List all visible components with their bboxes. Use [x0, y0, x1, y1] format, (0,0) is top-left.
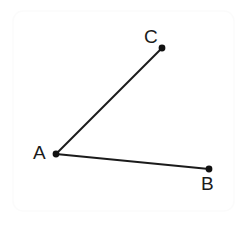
point-b	[206, 166, 213, 173]
point-a	[53, 151, 60, 158]
vertex-label-a: A	[33, 143, 46, 162]
point-c	[159, 45, 166, 52]
diagram-canvas: A B C	[0, 0, 249, 225]
vertex-label-b: B	[201, 174, 214, 193]
vertex-label-c: C	[144, 27, 158, 46]
